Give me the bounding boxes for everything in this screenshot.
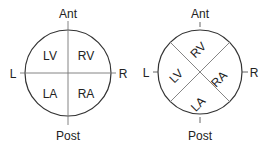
diagram-upright: Ant Post L R LV RV LA RA [10,7,128,143]
label-right: R [250,66,259,80]
quadrant-la: LA [188,94,208,114]
label-posterior: Post [56,129,81,143]
label-anterior: Ant [191,7,210,21]
quadrant-rv: RV [78,49,94,63]
quadrant-ra: RA [208,68,230,90]
label-left: L [143,66,150,80]
heart-orientation-diagram: Ant Post L R LV RV LA RA Ant Post L R RV… [0,0,265,151]
quadrant-la: LA [43,87,58,101]
quadrant-rv: RV [187,39,209,61]
label-left: L [10,67,17,81]
label-posterior: Post [188,129,213,143]
label-anterior: Ant [59,7,78,21]
diagram-rotated: Ant Post L R RV LV RA LA [143,7,259,143]
quadrant-ra: RA [78,87,95,101]
quadrant-lv: LV [43,49,57,63]
label-right: R [119,67,128,81]
quadrant-lv: LV [166,66,186,86]
